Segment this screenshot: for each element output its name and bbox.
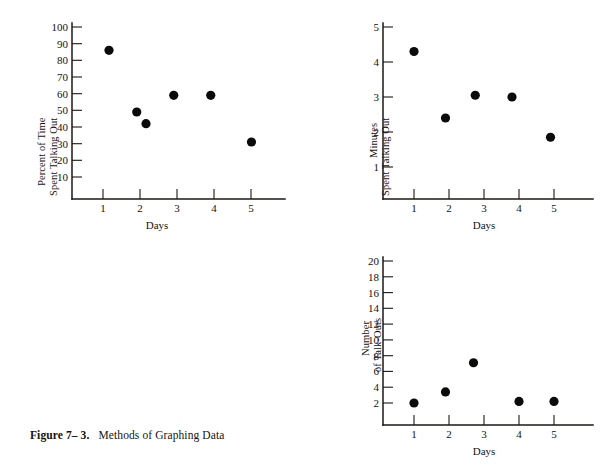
- data-point: [469, 358, 478, 367]
- x-tick-label: 4: [211, 202, 217, 214]
- y-tick-label: 5: [374, 21, 380, 33]
- data-points-minutes-talking: [409, 47, 555, 142]
- y-axis-label-percent-time: Percent of Time: [36, 117, 48, 186]
- y-tick-label: 50: [57, 104, 69, 116]
- y-axis-label-line1: Percent of Time: [36, 117, 48, 186]
- x-tick-label: 5: [551, 202, 557, 214]
- y-axis-ticks: [383, 261, 393, 403]
- x-tick-label: 4: [516, 428, 522, 440]
- x-tick-label: 1: [411, 428, 417, 440]
- y-axis-label-line1: Minutes: [368, 123, 380, 158]
- data-point: [507, 92, 516, 101]
- y-tick-label: 16: [368, 287, 380, 299]
- data-point: [471, 91, 480, 100]
- data-point: [409, 398, 418, 407]
- x-tick-label: 1: [100, 202, 106, 214]
- data-point: [441, 387, 450, 396]
- chart-panel-number-talkouts: Number of Talk-Outs 20 18: [308, 226, 608, 470]
- y-axis-ticks: [72, 27, 82, 177]
- x-tick-label: 4: [516, 202, 522, 214]
- x-tick-label: 3: [481, 202, 487, 214]
- data-points-number-talkouts: [409, 358, 558, 407]
- data-point: [132, 107, 141, 116]
- x-tick-label: 1: [411, 202, 417, 214]
- figure-number: Figure 7– 3.: [30, 429, 89, 441]
- y-axis-label-line2: Spent Talking Out: [48, 118, 60, 196]
- scatter-plot-number-talkouts: 20 18 16 14 12 10 8 6 4 2 1 2: [308, 226, 608, 470]
- y-tick-label: 70: [57, 71, 69, 83]
- x-tick-label: 2: [446, 428, 452, 440]
- x-axis-ticks: [103, 189, 251, 199]
- x-tick-label: 2: [137, 202, 143, 214]
- x-tick-label: 5: [551, 428, 557, 440]
- y-axis-label-line2: Spent Talking Out: [380, 118, 392, 196]
- x-axis-label-percent-time: Days: [146, 219, 169, 231]
- data-point: [546, 133, 555, 142]
- figure-caption-text: Methods of Graphing Data: [98, 429, 224, 441]
- data-point: [441, 113, 450, 122]
- data-points-percent-time: [104, 46, 256, 147]
- x-tick-label: 2: [446, 202, 452, 214]
- y-axis-label-line1: Number: [360, 321, 372, 356]
- y-tick-label: 18: [368, 271, 380, 283]
- y-axis-label-minutes-2: Spent Talking Out: [380, 118, 392, 196]
- y-tick-label: 80: [57, 54, 69, 66]
- data-point: [169, 91, 178, 100]
- data-point: [206, 91, 215, 100]
- y-axis-label-line2: of Talk-Outs: [372, 318, 384, 372]
- scatter-plot-minutes-talking: 5 4 3 2 1 1 2 3 4 5 Days: [308, 0, 608, 240]
- y-tick-label: 14: [368, 302, 380, 314]
- y-tick-label: 20: [368, 255, 380, 267]
- data-point: [104, 46, 113, 55]
- x-tick-label: 3: [174, 202, 180, 214]
- y-axis-label-number-talkouts-2: of Talk-Outs: [372, 318, 384, 372]
- y-tick-label: 4: [374, 381, 380, 393]
- y-tick-label: 60: [57, 88, 69, 100]
- x-axis-tick-labels: 1 2 3 4 5: [411, 428, 557, 440]
- y-axis-label-number-talkouts: Number: [360, 321, 372, 356]
- data-point: [247, 137, 256, 146]
- data-point: [409, 47, 418, 56]
- y-tick-label: 100: [52, 21, 69, 33]
- y-tick-label: 4: [374, 56, 380, 68]
- y-tick-label: 2: [374, 397, 380, 409]
- x-tick-label: 3: [481, 428, 487, 440]
- y-axis-label-percent-time-2: Spent Talking Out: [48, 118, 60, 196]
- x-axis-ticks: [414, 189, 554, 199]
- y-tick-label: 3: [374, 91, 380, 103]
- data-point: [141, 119, 150, 128]
- x-axis-ticks: [414, 415, 554, 425]
- chart-panel-minutes-talking: Minutes Spent Talking Out 5 4 3 2 1: [308, 0, 608, 240]
- y-tick-label: 1: [374, 161, 380, 173]
- y-tick-label: 90: [57, 38, 69, 50]
- figure-caption: Figure 7– 3.Methods of Graphing Data: [30, 429, 224, 441]
- figure-container: Percent of Time Spent Talking Out: [0, 0, 608, 470]
- y-axis-label-minutes: Minutes: [368, 123, 380, 158]
- x-axis-tick-labels: 1 2 3 4 5: [411, 202, 557, 214]
- chart-panel-percent-time: Percent of Time Spent Talking Out: [0, 0, 300, 240]
- x-axis-label-number-talkouts: Days: [473, 445, 496, 457]
- data-point: [514, 397, 523, 406]
- data-point: [549, 397, 558, 406]
- x-axis-tick-labels: 1 2 3 4 5: [100, 202, 254, 214]
- x-tick-label: 5: [248, 202, 254, 214]
